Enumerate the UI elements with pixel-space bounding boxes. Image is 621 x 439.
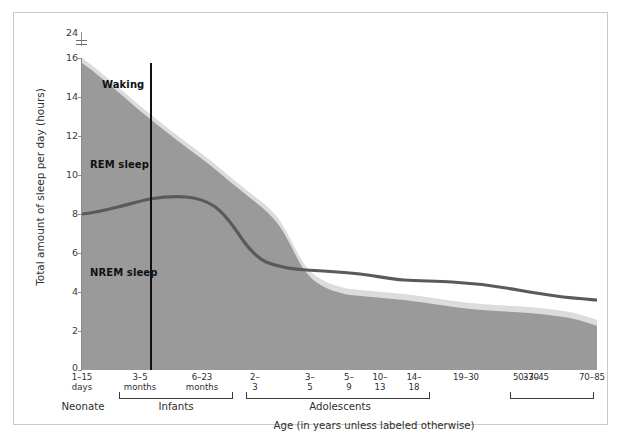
sleep-area-fill — [82, 63, 597, 370]
y-tick-label-2: 2 — [52, 326, 78, 336]
plot-area — [82, 58, 597, 370]
bracket-older-adults — [510, 392, 594, 399]
waking-area-label: Waking — [102, 79, 144, 90]
y-tick-label-16: 16 — [52, 53, 78, 63]
x-axis-right-segment: 50–70 70–85 — [14, 370, 609, 426]
y-axis-tick-labels: 24 16 14 12 10 8 6 4 2 0 — [44, 13, 78, 426]
y-tick-label-10: 10 — [52, 170, 78, 180]
age-reference-divider-line — [150, 63, 152, 370]
y-tick-label-6: 6 — [52, 248, 78, 258]
nrem-sleep-area-label: NREM sleep — [90, 267, 157, 278]
rem-sleep-area-label: REM sleep — [90, 159, 149, 170]
y-tick-label-24: 24 — [52, 28, 78, 38]
x-tick-label-50-70: 50–70 — [496, 373, 556, 383]
y-tick-label-4: 4 — [52, 287, 78, 297]
y-tick-label-14: 14 — [52, 92, 78, 102]
x-tick-label-70-85: 70–85 — [562, 373, 621, 383]
y-axis-title: Total amount of sleep per day (hours) — [34, 37, 46, 337]
chart-svg — [82, 58, 597, 370]
y-tick-label-8: 8 — [52, 209, 78, 219]
y-tick-label-12: 12 — [52, 131, 78, 141]
sleep-lifespan-chart-figure: 24 16 14 12 10 8 6 4 2 0 Total amount of… — [13, 12, 608, 425]
